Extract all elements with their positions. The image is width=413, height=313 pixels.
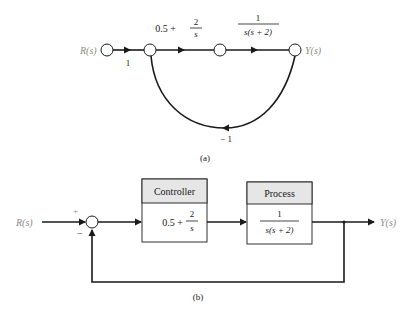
node-r-label: R(s)	[79, 45, 97, 57]
node-r	[101, 44, 113, 56]
gain-label-feedback: − 1	[220, 134, 232, 144]
input-label: R(s)	[15, 217, 33, 229]
branch-arrow-icon	[178, 47, 185, 54]
gain-label-controller-whole: 0.5 +	[155, 23, 176, 34]
gain-label-process-num: 1	[256, 13, 261, 23]
controller-tf-whole: 0.5 +	[162, 217, 183, 228]
node-1	[144, 44, 156, 56]
gain-label-unity: 1	[126, 58, 131, 68]
node-y-label: Y(s)	[305, 45, 322, 57]
caption-b: (b)	[193, 292, 204, 302]
process-block: Process 1 s(s + 2)	[247, 182, 312, 244]
gain-label-controller-den: s	[194, 29, 198, 39]
signal-flow-graph: R(s) Y(s) 1 0.5 + 2 s 1 s(s + 2) − 1 (a)	[79, 13, 322, 163]
minus-sign: −	[77, 228, 83, 239]
plus-sign: +	[73, 206, 78, 216]
diagram-canvas: R(s) Y(s) 1 0.5 + 2 s 1 s(s + 2) − 1 (a)…	[0, 0, 413, 313]
caption-a: (a)	[200, 153, 210, 163]
branch-arrow-icon	[222, 125, 229, 132]
controller-block: Controller 0.5 + 2 s	[142, 179, 207, 242]
node-2	[214, 44, 226, 56]
gain-label-controller-num: 2	[194, 17, 199, 27]
branch-arrow-icon	[251, 47, 258, 54]
feedback-branch-curve	[151, 56, 295, 128]
block-diagram: R(s) + − Controller 0.5 + 2 s Process 1 …	[15, 179, 397, 302]
branch-arrow-icon	[124, 47, 131, 54]
process-title: Process	[264, 188, 295, 199]
process-tf-num: 1	[277, 209, 282, 219]
output-label: Y(s)	[380, 217, 397, 229]
controller-tf-den: s	[190, 223, 194, 233]
controller-tf-num: 2	[190, 209, 195, 219]
node-y	[289, 44, 301, 56]
gain-label-process-den: s(s + 2)	[244, 27, 272, 37]
summing-junction	[86, 216, 98, 228]
process-tf-den: s(s + 2)	[265, 225, 293, 235]
controller-title: Controller	[154, 186, 196, 197]
